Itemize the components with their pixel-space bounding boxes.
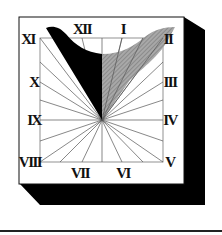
numeral-xi: XI <box>21 31 36 47</box>
horizontal-rule <box>0 230 222 232</box>
numeral-vi: VI <box>116 165 131 181</box>
sundial-figure: XI XII I II X IX VIII VII VI V IV III <box>0 0 222 235</box>
numeral-xii: XII <box>73 21 93 37</box>
numeral-ix: IX <box>27 112 42 128</box>
numeral-viii: VIII <box>19 154 43 170</box>
numeral-iii: III <box>163 74 178 90</box>
numeral-iv: IV <box>163 112 178 128</box>
numeral-vii: VII <box>71 165 91 181</box>
